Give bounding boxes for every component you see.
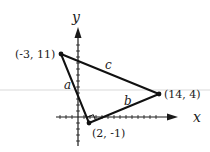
side-label-b: b (124, 94, 132, 108)
diagram-canvas: x y (0, 0, 210, 152)
vertex-c-point (87, 121, 92, 126)
coordinate-diagram: x y (0, 0, 210, 152)
x-axis-arrow-icon (167, 114, 178, 121)
y-axis-arrow-icon (75, 27, 82, 38)
vertex-label-2-neg1: (2, -1) (92, 127, 125, 140)
vertex-label-14-4: (14, 4) (164, 88, 201, 101)
side-label-c: c (105, 58, 112, 72)
side-label-a: a (64, 78, 71, 92)
vertex-label-neg3-11: (-3, 11) (15, 48, 55, 61)
vertex-a-point (59, 52, 64, 57)
y-axis: y (71, 9, 82, 146)
vertex-b-point (157, 92, 162, 97)
x-axis-label: x (193, 109, 201, 125)
y-axis-label: y (71, 9, 81, 25)
